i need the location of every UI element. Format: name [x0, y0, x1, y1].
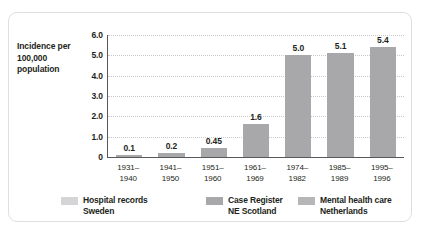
chart-legend: Hospital recordsSwedenCase RegisterNE Sc… — [61, 195, 407, 217]
bar-value-label: 1.6 — [235, 112, 277, 122]
bar-slot: 0.2 — [150, 35, 192, 157]
y-tick-3: 3.0 — [91, 91, 103, 101]
x-axis-label: 1961–1969 — [234, 163, 276, 184]
bar — [327, 53, 353, 157]
legend-item: Hospital recordsSweden — [61, 195, 206, 217]
bar-slot: 5.0 — [277, 35, 319, 157]
y-tick-1: 1.0 — [91, 132, 103, 142]
bar-slot: 0.45 — [193, 35, 235, 157]
figure-card: Incidence per 100,000 population 6.0 5.0… — [8, 12, 412, 222]
bar — [285, 55, 311, 157]
x-axis-label: 1931–1940 — [107, 163, 149, 184]
x-axis-label: 1985–1989 — [318, 163, 360, 184]
x-axis-label: 1951–1960 — [192, 163, 234, 184]
bar — [158, 153, 184, 157]
plot-area: 6.0 5.0 4.0 3.0 2.0 1.0 0 0.10.20.451.65… — [79, 35, 403, 195]
legend-label: Case RegisterNE Scotland — [228, 195, 283, 217]
x-axis-label: 1941–1950 — [149, 163, 191, 184]
bar — [370, 47, 396, 157]
x-axis-labels: 1931–19401941–19501951–19601961–19691974… — [107, 163, 403, 184]
y-axis-ticks: 6.0 5.0 4.0 3.0 2.0 1.0 0 — [79, 35, 103, 157]
y-axis-title-line-1: Incidence — [17, 41, 55, 51]
legend-swatch — [206, 197, 223, 205]
bar-value-label: 0.1 — [108, 143, 150, 153]
bar-value-label: 0.2 — [150, 141, 192, 151]
y-tick-0: 0 — [98, 152, 103, 162]
bar — [116, 155, 142, 157]
bar-value-label: 5.1 — [319, 41, 361, 51]
x-axis-label: 1995–1996 — [361, 163, 403, 184]
bar — [201, 148, 227, 157]
bar-slot: 5.4 — [362, 35, 404, 157]
x-axis-label: 1974–1982 — [276, 163, 318, 184]
legend-swatch — [61, 197, 78, 205]
bar-slot: 0.1 — [108, 35, 150, 157]
plot-canvas: 0.10.20.451.65.05.15.4 — [107, 35, 404, 158]
legend-label: Hospital recordsSweden — [83, 195, 148, 217]
clipped-caption-strip: the proportion of people diagnosed with … — [0, 0, 422, 7]
bar-group: 0.10.20.451.65.05.15.4 — [108, 35, 404, 157]
bar-slot: 5.1 — [319, 35, 361, 157]
legend-swatch — [298, 197, 315, 205]
legend-item: Mental health careNetherlands — [298, 195, 407, 217]
y-tick-6: 6.0 — [91, 30, 103, 40]
y-axis-title: Incidence per 100,000 population — [17, 41, 79, 76]
bar-value-label: 0.45 — [193, 136, 235, 146]
legend-item: Case RegisterNE Scotland — [206, 195, 298, 217]
legend-label: Mental health careNetherlands — [320, 195, 391, 217]
y-axis-title-line-3: population — [17, 64, 59, 74]
bar — [243, 124, 269, 157]
y-tick-2: 2.0 — [91, 111, 103, 121]
bar-value-label: 5.0 — [277, 43, 319, 53]
y-tick-4: 4.0 — [91, 71, 103, 81]
bar-value-label: 5.4 — [362, 35, 404, 45]
y-tick-5: 5.0 — [91, 50, 103, 60]
bar-slot: 1.6 — [235, 35, 277, 157]
